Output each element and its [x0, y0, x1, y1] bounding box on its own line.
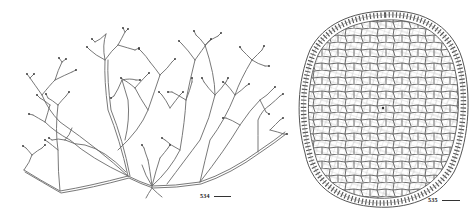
- scale-bar-534: [214, 196, 231, 197]
- branched-thallus-drawing: [0, 0, 290, 212]
- figure-535-cross-section: 535: [290, 0, 476, 212]
- cross-section-drawing: [290, 0, 476, 212]
- figure-label-535: 535: [428, 197, 438, 203]
- scale-bar-535: [442, 200, 460, 201]
- figure-534-branched-thallus: 534: [0, 0, 290, 212]
- figure-label-534: 534: [200, 193, 210, 199]
